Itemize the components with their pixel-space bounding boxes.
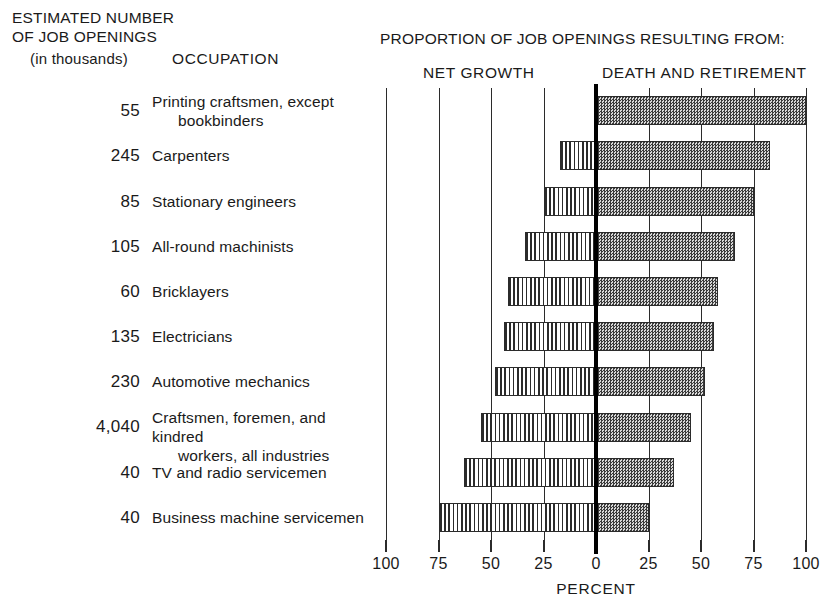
bar-death-and-retirement	[596, 232, 735, 261]
job-openings-value: 245	[0, 146, 140, 166]
bar-death-and-retirement	[596, 187, 754, 216]
bar-death-and-retirement	[596, 458, 674, 487]
axis-tick-label-6: 50	[692, 555, 710, 573]
job-openings-value: 230	[0, 372, 140, 392]
proportion-title: PROPORTION OF JOB OPENINGS RESULTING FRO…	[380, 30, 785, 48]
occupation-label-line2: bookbinders	[152, 111, 380, 130]
estimated-number-line2: OF JOB OPENINGS	[12, 27, 157, 46]
occupation-label: Automotive mechanics	[152, 372, 380, 391]
estimated-number-units: (in thousands)	[30, 49, 128, 68]
bar-death-and-retirement	[596, 503, 649, 532]
job-openings-value: 55	[0, 101, 140, 121]
table-row: 60Bricklayers	[0, 282, 380, 301]
axis-tick-label-3: 25	[534, 555, 552, 573]
table-row: 105All-round machinists	[0, 237, 380, 256]
bar-death-and-retirement	[596, 367, 705, 396]
gridline-100	[806, 88, 807, 540]
bar-net-growth	[439, 503, 597, 532]
occupation-label: Bricklayers	[152, 282, 380, 301]
occupation-label-line1: Craftsmen, foremen, and kindred	[152, 409, 326, 445]
occupation-table: 55Printing craftsmen, exceptbookbinders2…	[0, 88, 380, 540]
bar-net-growth	[544, 187, 597, 216]
occupation-label-line1: Printing craftsmen, except	[152, 93, 334, 110]
occupation-label-line1: All-round machinists	[152, 238, 294, 255]
job-openings-value: 60	[0, 282, 140, 302]
bar-death-and-retirement	[596, 141, 770, 170]
chart-figure: ESTIMATED NUMBER OF JOB OPENINGS (in tho…	[0, 0, 837, 604]
occupation-label: Printing craftsmen, exceptbookbinders	[152, 92, 380, 130]
occupation-label-line1: Bricklayers	[152, 283, 229, 300]
job-openings-value: 135	[0, 327, 140, 347]
occupation-label-line1: Electricians	[152, 328, 232, 345]
plot-area	[386, 88, 806, 540]
occupation-label: Electricians	[152, 327, 380, 346]
occupation-label-line1: Carpenters	[152, 147, 230, 164]
table-row: 40TV and radio servicemen	[0, 463, 380, 482]
table-row: 55Printing craftsmen, exceptbookbinders	[0, 92, 380, 130]
axis-tick-label-4: 0	[591, 555, 600, 573]
estimated-number-line1: ESTIMATED NUMBER	[12, 8, 174, 27]
bar-net-growth	[525, 232, 596, 261]
occupation-label: Carpenters	[152, 146, 380, 165]
occupation-label: Stationary engineers	[152, 192, 380, 211]
axis-tick-label-8: 100	[792, 555, 820, 573]
occupation-column-header: OCCUPATION	[172, 49, 279, 68]
occupation-label: Craftsmen, foremen, and kindredworkers, …	[152, 408, 380, 465]
axis-tick-label-0: 100	[372, 555, 400, 573]
occupation-label: Business machine servicemen	[152, 508, 380, 527]
table-row: 245Carpenters	[0, 146, 380, 165]
job-openings-value: 40	[0, 463, 140, 483]
occupation-label-line1: Business machine servicemen	[152, 509, 364, 526]
axis-tick-0	[385, 540, 387, 552]
bar-death-and-retirement	[596, 96, 806, 125]
axis-tick-3	[543, 540, 545, 552]
table-row: 4,040Craftsmen, foremen, and kindredwork…	[0, 408, 380, 446]
bar-net-growth	[481, 413, 597, 442]
bar-net-growth	[495, 367, 596, 396]
table-row: 230Automotive mechanics	[0, 372, 380, 391]
legend-net-growth: NET GROWTH	[423, 64, 535, 82]
job-openings-value: 85	[0, 192, 140, 212]
bar-death-and-retirement	[596, 413, 691, 442]
occupation-label-line1: Automotive mechanics	[152, 373, 310, 390]
table-row: 85Stationary engineers	[0, 192, 380, 211]
axis-tick-label-1: 75	[429, 555, 447, 573]
bar-net-growth	[504, 322, 596, 351]
occupation-label: All-round machinists	[152, 237, 380, 256]
axis-title: PERCENT	[556, 580, 636, 598]
job-openings-value: 105	[0, 237, 140, 257]
axis-tick-8	[805, 540, 807, 552]
bar-net-growth	[464, 458, 596, 487]
x-axis: 1007550250255075100 PERCENT	[386, 540, 806, 600]
table-row: 40Business machine servicemen	[0, 508, 380, 527]
job-openings-value: 4,040	[0, 417, 140, 437]
axis-tick-7	[753, 540, 755, 552]
occupation-label-line1: TV and radio servicemen	[152, 464, 327, 481]
axis-tick-5	[648, 540, 650, 552]
legend-death-and-retirement: DEATH AND RETIREMENT	[602, 64, 807, 82]
bar-net-growth	[560, 141, 596, 170]
bar-death-and-retirement	[596, 277, 718, 306]
bar-death-and-retirement	[596, 322, 714, 351]
occupation-label-line1: Stationary engineers	[152, 193, 296, 210]
table-row: 135Electricians	[0, 327, 380, 346]
occupation-label: TV and radio servicemen	[152, 463, 380, 482]
axis-tick-1	[438, 540, 440, 552]
axis-tick-6	[700, 540, 702, 552]
bar-net-growth	[508, 277, 596, 306]
zero-axis-line	[594, 84, 598, 544]
axis-tick-label-7: 75	[744, 555, 762, 573]
job-openings-value: 40	[0, 508, 140, 528]
axis-tick-label-2: 50	[482, 555, 500, 573]
axis-tick-2	[490, 540, 492, 552]
axis-tick-label-5: 25	[639, 555, 657, 573]
